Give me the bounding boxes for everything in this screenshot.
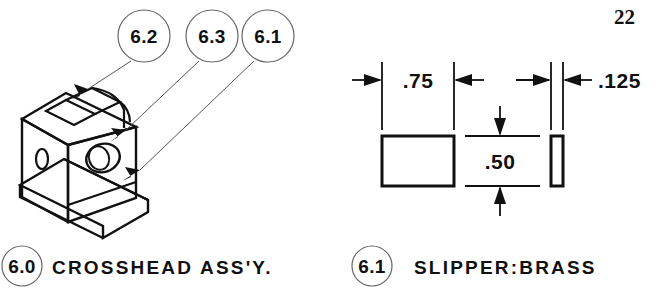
caption-crosshead-assembly[interactable]: 6.0 CROSSHEAD ASS'Y. <box>2 246 273 286</box>
balloon-6-1[interactable]: 6.1 <box>242 10 294 62</box>
leader-arrowhead-6-3 <box>110 128 126 142</box>
leader-arrowhead-6-1 <box>122 167 140 181</box>
caption-slipper-brass[interactable]: 6.1 SLIPPER:BRASS <box>352 246 597 286</box>
drawing-page: 22 <box>0 0 658 297</box>
caption-label-slipper: SLIPPER:BRASS <box>414 257 597 278</box>
caption-label-crosshead: CROSSHEAD ASS'Y. <box>52 257 273 278</box>
slipper-front-view-rect <box>382 136 454 186</box>
dim-arrowhead-125-right <box>563 74 581 86</box>
balloon-label-6-1: 6.1 <box>254 26 281 47</box>
dimension-label-125: .125 <box>598 69 641 92</box>
slipper-side-view-rect <box>551 136 563 186</box>
dim-arrowhead-50-top <box>494 118 506 136</box>
dimension-75: .75 <box>352 69 484 92</box>
slipper-detail-drawing: .75 .125 .50 <box>352 62 641 216</box>
dim-arrowhead-75-left <box>364 74 382 86</box>
side-hole <box>36 149 48 169</box>
leader-line-6-1 <box>140 61 254 170</box>
leader-line-6-3 <box>126 61 199 130</box>
leader-line-6-2 <box>88 61 131 89</box>
dim-arrowhead-125-left <box>533 74 551 86</box>
dim-arrowhead-50-bottom <box>494 186 506 204</box>
page-number: 22 <box>614 5 635 29</box>
dimension-label-50: .50 <box>485 150 516 173</box>
balloon-label-6-2: 6.2 <box>130 26 157 47</box>
caption-balloon-label-6-0: 6.0 <box>8 256 35 277</box>
callout-leaders <box>72 61 254 181</box>
balloon-6-2[interactable]: 6.2 <box>118 10 170 62</box>
balloon-6-3[interactable]: 6.3 <box>186 10 238 62</box>
caption-balloon-label-6-1: 6.1 <box>358 256 385 277</box>
dimension-50: .50 <box>465 106 540 216</box>
dimension-125: .125 <box>516 69 641 92</box>
balloon-label-6-3: 6.3 <box>198 26 225 47</box>
dim-arrowhead-75-right <box>454 74 472 86</box>
dimension-label-75: .75 <box>403 69 434 92</box>
crosshead-isometric-drawing <box>20 88 148 238</box>
